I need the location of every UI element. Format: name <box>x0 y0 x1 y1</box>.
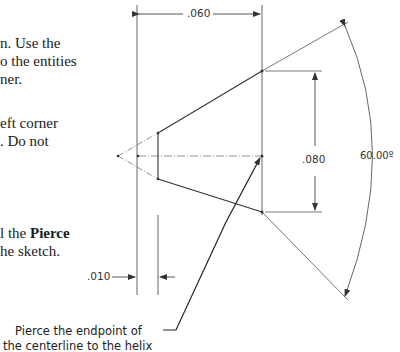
dimension-angle-60: 60.00º <box>360 150 393 161</box>
dimension-offset-010: .010 <box>87 270 110 282</box>
dimension-height-080: .080 <box>302 153 325 165</box>
callout-line-2: the centerline to the helix <box>3 337 152 352</box>
sketch-drawing <box>0 0 400 352</box>
dimension-width-060: .060 <box>187 7 210 19</box>
upper-edge <box>158 71 262 133</box>
